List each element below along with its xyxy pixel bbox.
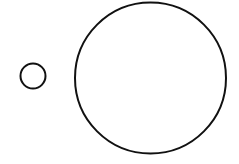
large-circle [75,3,226,154]
small-circle [21,64,46,89]
diagram-canvas [0,0,239,164]
